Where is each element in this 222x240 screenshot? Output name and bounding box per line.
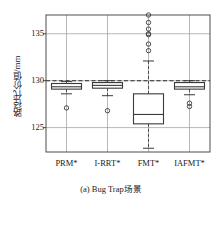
figure-caption: (a) Bug Trap场景 [0, 182, 222, 194]
x-tick-label-iafmt: IAFMT* [174, 158, 205, 168]
y-axis-label: 路径代价值/mm [10, 36, 24, 136]
box-iafmt [175, 83, 205, 90]
box-fmt [134, 94, 164, 124]
x-tick-label-irrt: I-RRT* [95, 158, 121, 168]
x-tick-label-prm: PRM* [55, 158, 77, 168]
x-tick-label-fmt: FMT* [138, 158, 160, 168]
